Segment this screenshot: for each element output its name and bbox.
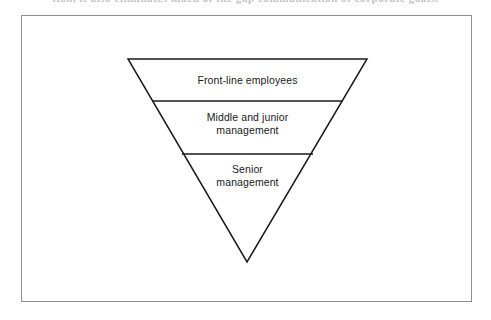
- tier-label-line: management: [182, 176, 313, 189]
- pyramid-tier-label-senior-management: Senior management: [182, 163, 313, 189]
- tier-label-line: Middle and junior: [152, 111, 343, 124]
- page-canvas: tion, it also eliminates much of the gap…: [0, 0, 491, 320]
- pyramid-tier-label-middle-and-junior-management: Middle and junior management: [152, 111, 343, 137]
- pyramid-tier-label-front-line-employees: Front-line employees: [128, 74, 367, 87]
- tier-label-line: Senior: [182, 163, 313, 176]
- pyramid-outline-shape: [128, 59, 367, 262]
- inverted-pyramid-diagram: [0, 0, 491, 320]
- tier-label-line: Front-line employees: [128, 74, 367, 87]
- tier-label-line: management: [152, 124, 343, 137]
